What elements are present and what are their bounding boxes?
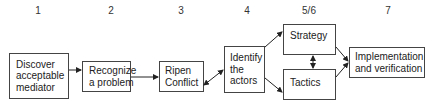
arrow-identify-tactics <box>265 78 282 92</box>
arrow-tactics-implementation <box>336 63 348 77</box>
arrow-strategy-implementation <box>336 47 348 61</box>
arrow-identify-strategy <box>265 32 282 47</box>
connector-arrows <box>0 0 434 108</box>
arrow-ripen-identify <box>204 70 223 85</box>
